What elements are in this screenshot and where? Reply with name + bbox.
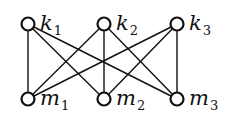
node-label-k1: k1: [40, 11, 62, 38]
node-k2: [98, 18, 111, 31]
node-m2: [98, 93, 111, 106]
bipartite-graph: k1k2k3m1m2m3: [0, 0, 245, 126]
node-k1: [22, 18, 35, 31]
node-k3: [171, 18, 184, 31]
node-label-k2: k2: [116, 11, 138, 38]
node-label-m2: m2: [116, 86, 145, 113]
node-m3: [171, 93, 184, 106]
node-m1: [22, 93, 35, 106]
node-label-m3: m3: [189, 86, 218, 113]
node-label-k3: k3: [189, 11, 211, 38]
node-label-m1: m1: [40, 86, 69, 113]
